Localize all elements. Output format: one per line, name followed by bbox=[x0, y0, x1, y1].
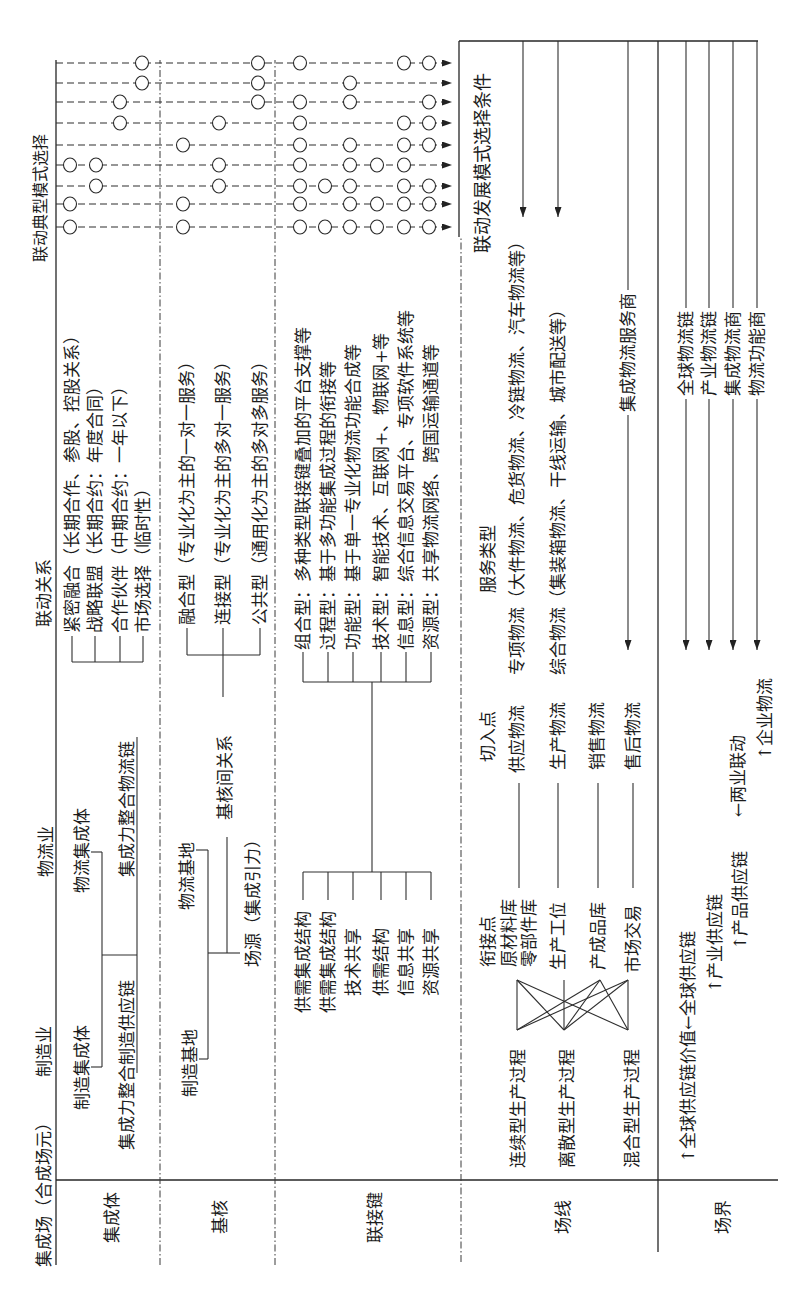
selection-circle-icon bbox=[423, 56, 436, 70]
selection-circle-icon bbox=[423, 197, 436, 211]
relation-item: 紧密融合（长期合作、参股、控股关系） bbox=[63, 327, 81, 633]
process-connection-crossing bbox=[517, 980, 628, 1030]
logistics-level: 产业物流链 bbox=[700, 308, 718, 399]
row-label-integration-body: 集成体 bbox=[103, 1192, 121, 1243]
typical-mode-column bbox=[56, 76, 452, 90]
selection-circle-icon bbox=[344, 158, 357, 172]
link-key-type: 过程型：基于多功能集成过程的衔接等 bbox=[319, 361, 337, 650]
selection-circle-icon bbox=[64, 197, 77, 211]
typical-mode-columns bbox=[56, 56, 452, 234]
selection-circle-icon bbox=[64, 220, 77, 234]
grid-lines bbox=[56, 41, 778, 1265]
selection-circle-icon bbox=[344, 138, 357, 152]
link-key-type-name: 过程型 bbox=[318, 599, 338, 650]
relation-item: 战略联盟（长期合约：年度合同） bbox=[86, 378, 104, 633]
row-label-field-line: 场线 bbox=[554, 1200, 572, 1234]
connection-point: 生产工位 bbox=[549, 902, 567, 970]
selection-circle-icon bbox=[423, 95, 436, 109]
selection-circle-icon bbox=[423, 179, 436, 193]
process-mixed: 混合型生产过程 bbox=[623, 1049, 641, 1168]
process-continuous: 连续型生产过程 bbox=[509, 1049, 527, 1168]
service-type: 专项物流（大件物流、危货物流、冷链物流、汽车物流等） bbox=[508, 233, 526, 675]
relation-bracket bbox=[72, 636, 143, 662]
selection-circle-icon bbox=[398, 197, 411, 211]
selection-circle-icon bbox=[294, 95, 307, 109]
selection-circle-icon bbox=[371, 220, 384, 234]
relation-detail: （长期合约：年度合同） bbox=[85, 378, 105, 565]
selection-circle-icon bbox=[177, 220, 190, 234]
inter-core-relation: 基核间关系 bbox=[216, 735, 234, 820]
link-key-type-detail: 多种类型联接键叠加的平台支撑等 bbox=[293, 327, 313, 582]
typical-mode-column bbox=[56, 197, 452, 211]
selection-circle-icon bbox=[213, 158, 226, 172]
manufacturing-body: 制造集成体 bbox=[73, 1025, 91, 1110]
selection-circle-icon bbox=[371, 158, 384, 172]
logistics-chain: 集成力整合物流链 bbox=[118, 741, 136, 877]
selection-circle-icon bbox=[177, 138, 190, 152]
separator: ： bbox=[371, 582, 391, 599]
logistics-level: 集成物流商 bbox=[724, 308, 742, 399]
link-key-type: 组合型：多种类型联接键叠加的平台支撑等 bbox=[294, 327, 312, 650]
selection-circle-icon bbox=[136, 56, 149, 70]
relation-type: 战略联盟 bbox=[85, 565, 105, 633]
selection-circle-icon bbox=[294, 56, 307, 70]
selection-circle-icon bbox=[423, 220, 436, 234]
selection-circle-icon bbox=[371, 197, 384, 211]
logistics-base: 物流基地 bbox=[178, 842, 196, 910]
link-key-type-name: 信息型 bbox=[396, 599, 416, 650]
link-key-type-name: 资源型 bbox=[421, 599, 441, 650]
selection-circle-icon bbox=[319, 179, 332, 193]
link-key-type-detail: 智能技术、互联网+、物联网+等 bbox=[371, 333, 391, 583]
header-field: 集成场（合成场元） bbox=[35, 1114, 53, 1267]
selection-circle-icon bbox=[398, 138, 411, 152]
link-source: 供需结构 bbox=[372, 897, 390, 1027]
link-key-type-name: 技术型 bbox=[371, 599, 391, 650]
base-core-type: 连接型（专业化为主的多对一服务） bbox=[214, 353, 232, 625]
separator: ： bbox=[421, 582, 441, 599]
selection-circle-icon bbox=[398, 220, 411, 234]
relation-detail: （中期合约：一年以下） bbox=[110, 378, 130, 565]
link-key-type-detail: 综合信息交易平台、专项软件系统等 bbox=[396, 310, 416, 582]
selection-circle-icon bbox=[398, 179, 411, 193]
linkage-mode-diagram: 集成场（合成场元） 制造业 物流业 联动关系 联动典型模式选择 集成体 基核 联… bbox=[0, 0, 811, 1295]
selection-circle-icon bbox=[294, 138, 307, 152]
link-key-type: 功能型：基于单一专业化物流功能合成等 bbox=[344, 344, 362, 650]
enterprise-logistics: ↑企业物流 bbox=[756, 678, 774, 760]
typical-mode-column bbox=[56, 138, 452, 152]
logistics-level: 全球物流链 bbox=[677, 308, 695, 399]
typical-mode-column bbox=[56, 116, 452, 130]
relation-detail: （长期合作、参股、控股关系） bbox=[62, 327, 82, 565]
connection-point: 原材料库 bbox=[500, 899, 518, 967]
selection-circle-icon bbox=[294, 158, 307, 172]
link-key-type-detail: 基于单一专业化物流功能合成等 bbox=[343, 344, 363, 582]
selection-circle-icon bbox=[319, 220, 332, 234]
integrated-provider-label: 集成物流服务商 bbox=[619, 290, 637, 415]
typical-mode-column bbox=[56, 56, 452, 70]
selection-circle-icon bbox=[423, 138, 436, 152]
link-key-type-name: 组合型 bbox=[293, 599, 313, 650]
selection-circle-icon bbox=[252, 76, 265, 90]
separator: ： bbox=[343, 582, 363, 599]
connection-entry-links bbox=[519, 783, 633, 888]
selection-circle-icon bbox=[90, 179, 103, 193]
selection-circle-icon bbox=[177, 197, 190, 211]
link-source: 供需集成结构 bbox=[294, 897, 312, 1027]
selection-circle-icon bbox=[252, 56, 265, 70]
entry-point-label: 切入点 bbox=[479, 711, 497, 762]
selection-circle-icon bbox=[294, 197, 307, 211]
row-label-base-core: 基核 bbox=[211, 1200, 229, 1234]
selection-circle-icon bbox=[398, 116, 411, 130]
selection-circle-icon bbox=[344, 76, 357, 90]
base-core-type-detail: （专业化为主的一对一服务） bbox=[177, 353, 197, 574]
entry-point: 供应物流 bbox=[508, 705, 526, 773]
manufacturing-chain: 集成力整合制造供应链 bbox=[118, 980, 136, 1150]
link-key-type-detail: 共享物流网络、跨国运输通道等 bbox=[421, 344, 441, 582]
entry-point: 生产物流 bbox=[549, 702, 567, 770]
selection-circle-icon bbox=[344, 220, 357, 234]
connection-point: 市场交易 bbox=[624, 905, 642, 973]
relation-detail: （临时性） bbox=[133, 480, 153, 565]
logistics-level: 物流功能商 bbox=[748, 308, 766, 399]
link-source: 技术共享 bbox=[344, 897, 362, 1027]
selection-circle-icon bbox=[213, 179, 226, 193]
separator: ： bbox=[318, 582, 338, 599]
